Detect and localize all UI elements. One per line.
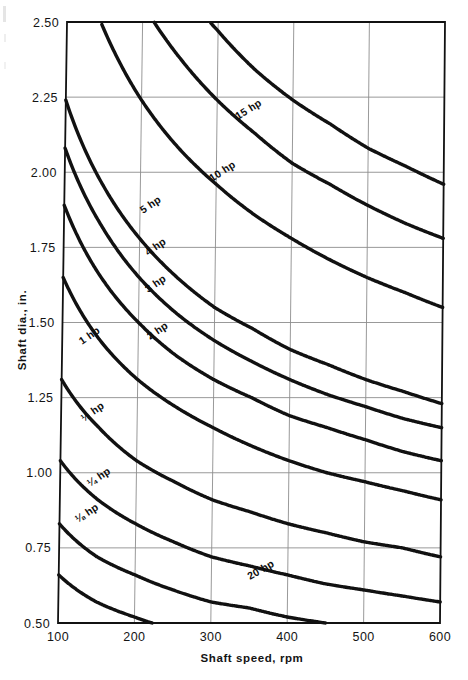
y-tick-label: 2.00 — [31, 166, 57, 180]
y-tick-label: 1.50 — [29, 316, 55, 330]
y-tick-label: 0.75 — [25, 541, 51, 555]
shaft-diameter-chart: 100200300400500600 0.500.751.001.251.501… — [0, 0, 468, 680]
y-tick-label: 1.00 — [26, 466, 52, 480]
y-tick-label: 1.25 — [27, 391, 53, 405]
y-tick-label: 1.75 — [30, 241, 56, 255]
x-tick-label: 400 — [276, 630, 298, 644]
y-tick-label: 0.50 — [24, 617, 50, 631]
x-axis-title: Shaft speed, rpm — [201, 652, 304, 664]
x-tick-label: 100 — [47, 630, 69, 644]
x-tick-label: 300 — [200, 630, 222, 644]
x-tick-label: 200 — [123, 630, 145, 644]
y-tick-label: 2.50 — [33, 16, 59, 30]
y-tick-label: 2.25 — [32, 91, 58, 105]
scan-artifact-1 — [3, 6, 6, 22]
x-tick-label: 500 — [353, 630, 375, 644]
x-tick-label: 600 — [429, 630, 451, 644]
scan-artifact-2 — [4, 34, 6, 42]
y-axis-title: Shaft dia., in. — [16, 290, 28, 371]
scan-artifact-3 — [4, 62, 6, 69]
chart-background — [0, 0, 468, 680]
chart-figure: 100200300400500600 0.500.751.001.251.501… — [0, 0, 468, 680]
